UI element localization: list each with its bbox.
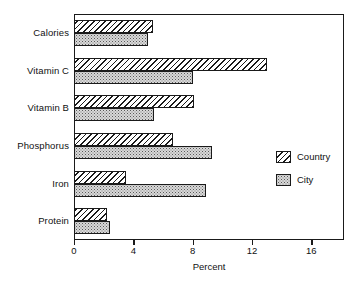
legend-label-country: Country [297,152,330,162]
x-axis-title: Percent [74,262,344,272]
legend-swatch-city-icon [276,174,291,186]
plot-area-frame [74,14,344,240]
bar-vitamin-b-city [74,108,154,121]
x-tick-label-0: 0 [61,246,87,256]
bar-protein-country [74,208,107,221]
category-label-phosphorus: Phosphorus [0,141,69,151]
x-tick-label-12: 12 [239,246,265,256]
chart-legend: Country City [276,150,330,196]
bar-vitamin-c-city [74,71,193,84]
bar-chart: CaloriesVitamin CVitamin BPhosphorusIron… [0,0,361,281]
category-label-calories: Calories [0,28,69,38]
legend-swatch-country-icon [276,151,291,163]
x-tick-label-16: 16 [298,246,324,256]
bar-iron-country [74,171,126,184]
bar-protein-city [74,221,110,234]
legend-item-city: City [276,173,330,187]
bar-phosphorus-city [74,146,212,159]
x-tick-label-4: 4 [120,246,146,256]
category-label-iron: Iron [0,179,69,189]
bar-vitamin-b-country [74,95,194,108]
category-label-vitamin-b: Vitamin B [0,103,69,113]
bar-calories-city [74,33,148,46]
bar-iron-city [74,184,206,197]
legend-label-city: City [297,175,313,185]
bar-phosphorus-country [74,133,173,146]
bar-vitamin-c-country [74,58,267,71]
category-label-protein: Protein [0,216,69,226]
bar-calories-country [74,20,153,33]
x-tick-label-8: 8 [180,246,206,256]
category-label-vitamin-c: Vitamin C [0,66,69,76]
legend-item-country: Country [276,150,330,164]
